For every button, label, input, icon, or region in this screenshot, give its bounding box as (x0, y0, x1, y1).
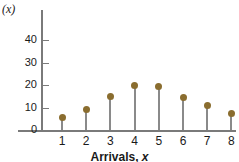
x-axis-title-variable: x (142, 150, 149, 162)
x-tick-label-8: 8 (221, 134, 239, 148)
data-point (180, 94, 187, 101)
y-tick-20 (43, 85, 49, 86)
data-stem (158, 86, 160, 130)
y-tick-0 (43, 130, 49, 131)
x-tick-label-4: 4 (125, 134, 145, 148)
y-tick-label-30: 30 (13, 57, 37, 68)
x-axis-title-text: Arrivals, (90, 150, 141, 162)
data-stem (134, 85, 136, 130)
y-tick-label-0: 0 (13, 124, 37, 135)
data-point (83, 106, 90, 113)
x-tick-label-1: 1 (52, 134, 72, 148)
data-point (228, 110, 235, 117)
data-stem (206, 105, 208, 130)
plot-area: 010203040 12345678 (0, 0, 239, 162)
y-tick-label-20: 20 (13, 79, 37, 90)
x-axis-title: Arrivals, x (0, 150, 239, 162)
data-point (107, 93, 114, 100)
y-tick-label-text: 40 (15, 34, 37, 45)
chart-figure: 010203040 12345678 (x) Arrivals, x (0, 0, 239, 162)
x-tick-label-3: 3 (100, 134, 120, 148)
y-tick-label-40: 40 (13, 34, 37, 45)
x-tick-label-6: 6 (173, 134, 193, 148)
x-tick-label-2: 2 (76, 134, 96, 148)
y-tick-10 (43, 108, 49, 109)
y-tick-label-text: 10 (15, 102, 37, 113)
x-tick-label-5: 5 (149, 134, 169, 148)
data-stem (109, 96, 111, 130)
y-axis-title: (x) (2, 2, 15, 16)
y-axis-line (41, 10, 43, 132)
y-tick-label-text: 30 (15, 57, 37, 68)
y-tick-label-text: 20 (15, 79, 37, 90)
x-axis-line (18, 130, 236, 132)
y-tick-label-10: 10 (13, 102, 37, 113)
y-tick-30 (43, 63, 49, 64)
data-point (59, 114, 66, 121)
data-stem (182, 97, 184, 130)
y-tick-40 (43, 40, 49, 41)
data-point (131, 82, 138, 89)
data-point (155, 83, 162, 90)
x-tick-label-7: 7 (197, 134, 217, 148)
y-tick-label-text: 0 (15, 124, 37, 135)
data-point (204, 102, 211, 109)
